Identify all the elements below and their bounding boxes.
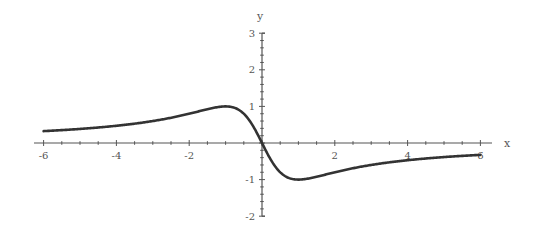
x-tick-label: -2 bbox=[184, 150, 194, 161]
x-tick-label: -4 bbox=[112, 150, 122, 161]
x-tick-label: 2 bbox=[332, 150, 338, 161]
y-tick-label: 2 bbox=[249, 64, 255, 75]
y-tick-label: 1 bbox=[249, 101, 255, 112]
x-tick-label: -6 bbox=[39, 150, 49, 161]
y-axis: -2-1123 bbox=[245, 28, 265, 222]
y-tick-label: -2 bbox=[245, 211, 255, 222]
y-tick-label: -1 bbox=[245, 174, 255, 185]
x-axis-label: x bbox=[504, 137, 511, 150]
chart-plot: -6-4-2246 -2-1123 x y bbox=[0, 0, 536, 236]
y-tick-label: 3 bbox=[249, 28, 255, 39]
y-axis-label: y bbox=[256, 10, 264, 23]
